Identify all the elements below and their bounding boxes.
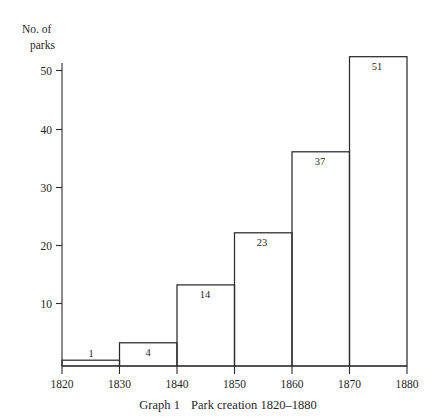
y-axis-label-line2: parks	[30, 39, 55, 52]
bar-1870-1880	[350, 57, 408, 366]
bar-value-1850-1860: 23	[257, 237, 268, 248]
caption-prefix: Graph 1	[139, 398, 180, 412]
x-tick-label-1850: 1850	[223, 378, 246, 390]
x-tick-label-1840: 1840	[166, 378, 189, 390]
bar-value-1840-1850: 14	[200, 289, 211, 300]
bar-chart: No. of parks 50 40 30 20 10 1820 1830 18…	[0, 0, 440, 417]
y-tick-label-30: 30	[41, 182, 53, 194]
caption-body: Park creation 1820–1880	[191, 398, 317, 412]
bar-value-1860-1870: 37	[315, 156, 326, 167]
bar-1820-1830	[62, 360, 120, 366]
bar-value-1870-1880: 51	[372, 61, 383, 72]
bar-value-1820-1830: 1	[88, 348, 93, 359]
x-tick-label-1860: 1860	[281, 378, 304, 390]
x-tick-label-1830: 1830	[108, 378, 131, 390]
x-tick-label-1820: 1820	[51, 378, 74, 390]
x-tick-label-1870: 1870	[338, 378, 361, 390]
figure-caption: Graph 1 Park creation 1820–1880	[139, 398, 316, 412]
x-tick-label-1880: 1880	[396, 378, 419, 390]
bar-value-1830-1840: 4	[145, 347, 151, 358]
y-tick-label-20: 20	[41, 240, 53, 252]
y-tick-label-50: 50	[41, 65, 53, 77]
y-tick-label-10: 10	[41, 298, 53, 310]
y-tick-label-40: 40	[41, 124, 53, 136]
figure-container: No. of parks 50 40 30 20 10 1820 1830 18…	[0, 0, 440, 417]
y-axis-label-line1: No. of	[22, 23, 52, 35]
bar-1860-1870	[292, 152, 350, 366]
bar-1850-1860	[235, 233, 293, 366]
